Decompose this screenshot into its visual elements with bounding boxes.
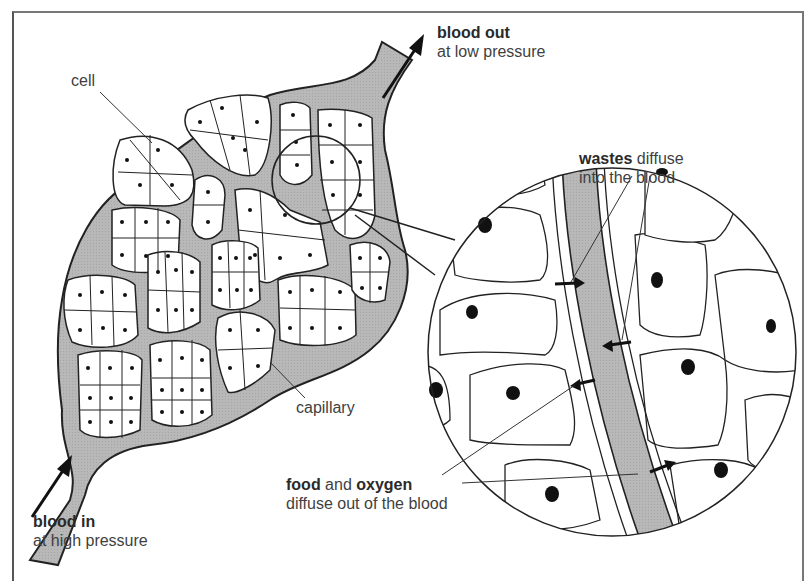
label-blood-in-detail: at high pressure: [33, 532, 148, 549]
label-capillary: capillary: [296, 398, 355, 417]
label-and: and: [321, 476, 357, 493]
label-food-oxygen: food and oxygen diffuse out of the blood: [286, 475, 448, 513]
label-wastes-bold: wastes: [579, 150, 632, 167]
label-cell: cell: [71, 71, 95, 90]
label-blood-in: blood in at high pressure: [33, 512, 148, 550]
label-oxygen-bold: oxygen: [356, 476, 412, 493]
label-blood-out-bold: blood out: [437, 24, 510, 41]
label-blood-out: blood out at low pressure: [437, 23, 546, 61]
label-wastes-verb: diffuse: [632, 150, 683, 167]
label-food-bold: food: [286, 476, 321, 493]
label-blood-in-bold: blood in: [33, 513, 95, 530]
label-food-oxygen-detail: diffuse out of the blood: [286, 495, 448, 512]
label-blood-out-detail: at low pressure: [437, 43, 546, 60]
label-wastes: wastes diffuse into the blood: [579, 149, 684, 187]
label-wastes-detail: into the blood: [579, 169, 675, 186]
